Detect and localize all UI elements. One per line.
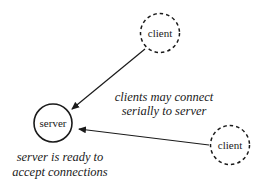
client-node-top: client (141, 14, 180, 53)
client-server-diagram: server client client clients may connect… (0, 0, 264, 187)
annotation-clients-connect: clients may connect serially to server (115, 90, 214, 118)
annotation-server-ready-line1: server is ready to (17, 150, 104, 164)
annotation-clients-connect-line1: clients may connect (115, 90, 214, 104)
client-node-right: client (211, 126, 250, 165)
annotation-server-ready-line2: accept connections (12, 165, 108, 179)
client-top-label: client (148, 27, 172, 39)
server-node: server (34, 104, 72, 142)
client-right-label: client (218, 139, 242, 151)
arrow-client-right-to-server (79, 129, 209, 145)
annotation-server-ready: server is ready to accept connections (12, 150, 108, 179)
annotation-clients-connect-line2: serially to server (122, 104, 207, 118)
server-label: server (40, 117, 67, 129)
